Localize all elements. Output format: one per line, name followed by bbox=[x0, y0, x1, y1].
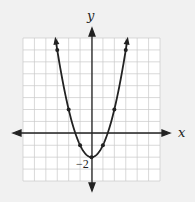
vertex-label: −2 bbox=[76, 157, 89, 171]
data-point bbox=[78, 143, 82, 147]
data-point bbox=[55, 48, 59, 52]
data-point bbox=[112, 108, 116, 112]
y-axis-up-arrow-icon bbox=[89, 28, 95, 36]
x-axis-label: x bbox=[178, 125, 186, 140]
data-point bbox=[101, 143, 105, 147]
parabola-graph: y x −2 bbox=[0, 0, 195, 202]
x-axis-left-arrow-icon bbox=[13, 130, 21, 136]
data-point bbox=[67, 108, 71, 112]
data-point bbox=[124, 48, 128, 52]
y-axis-label: y bbox=[86, 8, 95, 23]
x-axis-right-arrow-icon bbox=[162, 130, 170, 136]
data-point bbox=[90, 155, 94, 159]
y-axis-down-arrow-icon bbox=[89, 183, 95, 191]
